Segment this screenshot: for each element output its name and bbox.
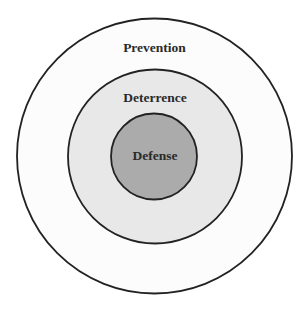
concentric-circles-diagram: Prevention Deterrence Defense: [0, 0, 305, 315]
deterrence-label: Deterrence: [123, 90, 186, 105]
defense-label: Defense: [133, 148, 178, 163]
prevention-label: Prevention: [123, 40, 186, 55]
